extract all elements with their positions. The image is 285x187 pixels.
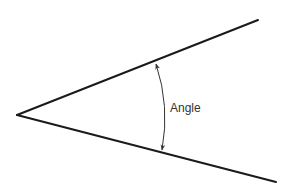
- upper-ray: [17, 20, 258, 115]
- lower-ray: [17, 115, 276, 182]
- angle-arc-arrow: [156, 64, 165, 150]
- angle-label: Angle: [170, 101, 201, 115]
- angle-diagram: Angle: [0, 0, 285, 187]
